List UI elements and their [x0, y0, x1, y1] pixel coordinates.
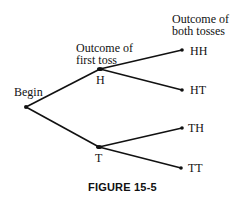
label-ht: HT: [190, 84, 206, 96]
node-ht-dot: [180, 88, 184, 92]
label-tt: TT: [188, 162, 203, 174]
header-first-toss-line2: first toss: [76, 54, 117, 66]
node-t-dot: [96, 145, 102, 149]
node-hh-dot: [180, 48, 184, 52]
header-both-tosses-line2: both tosses: [172, 25, 225, 37]
label-hh: HH: [190, 45, 207, 57]
edge-h-ht: [100, 69, 182, 90]
figure-caption: FIGURE 15-5: [88, 181, 157, 193]
node-begin-dot: [24, 105, 28, 109]
label-begin: Begin: [14, 86, 43, 98]
label-t: T: [95, 152, 102, 164]
node-h-dot: [97, 67, 103, 71]
probability-tree-diagram: Outcome of first toss Outcome of both to…: [0, 0, 238, 201]
label-h: H: [96, 74, 105, 86]
edge-begin-t: [26, 107, 99, 147]
label-th: TH: [188, 122, 204, 134]
node-th-dot: [180, 126, 184, 130]
edge-t-tt: [99, 147, 181, 168]
edge-t-th: [99, 128, 182, 147]
node-tt-dot: [179, 166, 183, 170]
